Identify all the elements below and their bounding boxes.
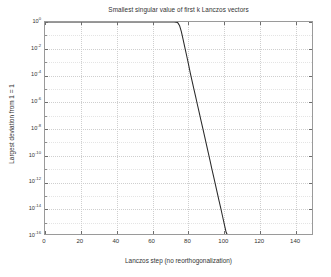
y-axis-tick-right <box>309 102 312 103</box>
x-axis-tick-top <box>153 22 154 25</box>
y-axis-tick-minor <box>45 142 47 143</box>
y-axis-tick <box>45 183 48 184</box>
y-tick-label: 100 <box>8 18 41 24</box>
figure: Smallest singular value of first k Lancz… <box>0 0 331 277</box>
y-axis-tick-right <box>309 76 312 77</box>
x-axis-tick <box>81 231 82 234</box>
x-axis-tick <box>296 231 297 234</box>
y-axis-tick <box>45 129 48 130</box>
page-title: Smallest singular value of first k Lancz… <box>44 6 313 14</box>
y-axis-tick <box>45 49 48 50</box>
plot-inner <box>45 22 312 234</box>
x-axis-tick-top <box>45 22 46 25</box>
x-axis-tick <box>153 231 154 234</box>
y-axis-tick-right <box>309 129 312 130</box>
y-axis-tick <box>45 102 48 103</box>
x-tick-label: 80 <box>177 238 197 245</box>
y-tick-label: 10-14 <box>8 205 41 211</box>
series-line-smallest-singular-value <box>47 22 312 234</box>
y-axis-tick-right <box>309 209 312 210</box>
x-axis-tick-top <box>296 22 297 25</box>
x-axis-tick <box>45 231 46 234</box>
x-tick-label: 40 <box>106 238 126 245</box>
y-axis-tick-right <box>309 49 312 50</box>
x-axis-tick-top <box>188 22 189 25</box>
x-axis-tick <box>260 231 261 234</box>
x-axis-tick <box>224 231 225 234</box>
y-axis-tick-right <box>309 183 312 184</box>
x-axis-tick-top <box>117 22 118 25</box>
x-axis-tick-top <box>81 22 82 25</box>
x-axis-tick-top <box>260 22 261 25</box>
y-axis-tick-minor <box>45 62 47 63</box>
x-tick-label: 100 <box>213 238 233 245</box>
y-axis-tick-minor <box>45 89 47 90</box>
x-tick-label: 120 <box>249 238 269 245</box>
plot-area <box>44 21 313 235</box>
x-tick-label: 140 <box>285 238 305 245</box>
y-axis-tick-minor <box>45 223 47 224</box>
x-axis-tick <box>188 231 189 234</box>
x-tick-label: 20 <box>70 238 90 245</box>
y-axis-tick-minor <box>45 169 47 170</box>
y-axis-tick <box>45 76 48 77</box>
y-axis-tick-minor <box>45 196 47 197</box>
y-axis-tick <box>45 156 48 157</box>
y-axis-tick <box>45 209 48 210</box>
y-axis-tick-minor <box>45 116 47 117</box>
data-layer <box>45 22 312 234</box>
y-axis-tick-right <box>309 156 312 157</box>
x-axis-label: Lanczos step (no reorthogonalization) <box>44 257 313 265</box>
x-axis-tick <box>117 231 118 234</box>
x-tick-label: 60 <box>142 238 162 245</box>
y-axis-tick-right <box>309 22 312 23</box>
x-axis-tick-top <box>224 22 225 25</box>
y-axis-tick-minor <box>45 35 47 36</box>
x-tick-label: 0 <box>34 238 54 245</box>
y-tick-label: 10-16 <box>8 232 41 238</box>
y-axis-label: Largest deviation from 1 = 1 <box>8 49 16 199</box>
